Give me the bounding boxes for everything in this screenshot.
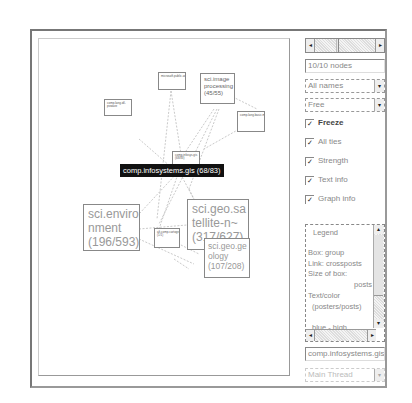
zoom-scrollbar[interactable]: ◂ ▸ [305, 38, 385, 53]
scroll-up-icon[interactable]: ▴ [374, 225, 383, 234]
checkbox-checked-icon[interactable]: ✓ [305, 138, 314, 147]
legend-line: Box: group [308, 248, 372, 259]
legend-content: Legend Box: group Link: crossposts Size … [308, 228, 372, 333]
bottom-select[interactable]: Main Thread ▾ [305, 368, 385, 382]
layout-select[interactable]: Free ▾ [305, 98, 385, 112]
node-sci-environment[interactable]: sci.enviro nment (196/593) [83, 204, 140, 251]
checkbox-checked-icon[interactable]: ✓ [305, 157, 314, 166]
checkbox-label: Text info [318, 175, 348, 184]
scroll-right-icon[interactable]: ▸ [375, 39, 384, 52]
scroll-left-icon[interactable]: ◂ [306, 330, 315, 341]
node-comp-lang-right[interactable]: comp.lang.basic.misc [237, 111, 265, 132]
scroll-right-icon[interactable]: ▸ [367, 330, 376, 341]
legend-line: posts [308, 280, 372, 291]
text-info-checkbox[interactable]: ✓Text info [305, 174, 348, 186]
node-sci-image-processing[interactable]: sci.image processing (45/55) [200, 73, 235, 104]
node-label: sci.enviro nment (196/593) [88, 207, 139, 249]
checkbox-checked-icon[interactable]: ✓ [305, 195, 314, 204]
node-label: sci.image processing (45/55) [204, 76, 233, 96]
node-count-field: 10/10 nodes [305, 59, 385, 73]
node-tooltip: comp.infosystems.gis (68/83) [120, 164, 224, 177]
checkbox-checked-icon[interactable]: ✓ [305, 119, 314, 128]
checkbox-label: Strength [318, 156, 348, 165]
node-alt-comp[interactable]: alt.comp.cartography (1/1) [154, 228, 180, 248]
legend-vertical-scrollbar[interactable]: ▴ ▾ [373, 225, 384, 328]
scroll-down-icon[interactable]: ▾ [374, 319, 383, 328]
selected-group-field[interactable]: comp.infosystems.gis [305, 347, 385, 361]
checkbox-checked-icon[interactable]: ✓ [305, 176, 314, 185]
legend-line: (posters/posts) [308, 302, 372, 313]
chevron-down-icon[interactable]: ▾ [374, 99, 384, 111]
scroll-thumb[interactable] [374, 235, 383, 296]
chevron-down-icon[interactable]: ▾ [374, 80, 384, 92]
graph-info-checkbox[interactable]: ✓Graph info [305, 193, 355, 205]
legend-line: Text/color [308, 291, 372, 302]
node-label: comp.infosys.gis (68/83) [175, 153, 197, 160]
strength-checkbox[interactable]: ✓Strength [305, 155, 348, 167]
chevron-down-icon[interactable]: ▾ [374, 369, 384, 381]
checkbox-label: All ties [318, 137, 342, 146]
all-ties-checkbox[interactable]: ✓All ties [305, 136, 342, 148]
node-sci-geo-geology[interactable]: sci.geo.ge ology (107/208) [204, 238, 250, 278]
node-microsoft-public[interactable]: microsoft.public.ar~ [158, 72, 186, 90]
node-comp-lang-left[interactable]: comp.lang.idl-pvwave [104, 99, 132, 116]
layout-select-value: Free [308, 100, 324, 109]
node-label: sci.geo.ge ology (107/208) [208, 241, 247, 271]
names-select[interactable]: All names ▾ [305, 79, 385, 93]
checkbox-label: Graph info [318, 194, 355, 203]
node-label: alt.comp.cartography (1/1) [157, 230, 180, 237]
node-label: microsoft.public.ar~ [161, 74, 186, 78]
scroll-thumb[interactable] [336, 39, 339, 52]
freeze-checkbox[interactable]: ✓Freeze [305, 117, 343, 129]
node-label: comp.lang.basic.misc [240, 113, 265, 117]
legend-horizontal-scrollbar[interactable]: ◂ ▸ [306, 329, 376, 341]
names-select-value: All names [308, 81, 343, 90]
node-label: comp.lang.idl-pvwave [107, 101, 126, 108]
graph-canvas[interactable]: microsoft.public.ar~ sci.image processin… [38, 38, 290, 376]
scroll-left-icon[interactable]: ◂ [306, 39, 315, 52]
legend-line: Link: crossposts [308, 259, 372, 270]
legend-textarea[interactable]: Legend Box: group Link: crossposts Size … [305, 224, 385, 342]
bottom-select-value: Main Thread [308, 370, 353, 379]
checkbox-label: Freeze [318, 118, 343, 127]
legend-line [308, 313, 372, 323]
legend-line: Size of box: [308, 269, 372, 280]
legend-title: Legend [308, 228, 372, 239]
